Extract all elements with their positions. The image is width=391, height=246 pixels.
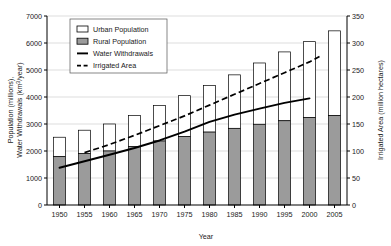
x-axis-tick-label: 1980 [202, 210, 218, 219]
bar-group [329, 31, 341, 205]
y-axis-right-tick-label: 200 [352, 93, 364, 102]
legend-item-label: Water Withdrawals [93, 49, 153, 58]
x-axis-tick-label: 1970 [152, 210, 168, 219]
legend-item: Rural Population [77, 37, 146, 46]
y-axis-left-tick-label: 3000 [26, 120, 42, 129]
x-axis-tick-label: 1950 [52, 210, 68, 219]
x-axis-title: Year [199, 232, 214, 241]
legend-item: Urban Population [77, 25, 149, 34]
x-axis-tick-label: 1995 [277, 210, 293, 219]
bar-group [179, 96, 191, 205]
y-axis-right-tick-label: 350 [352, 12, 364, 21]
bar-segment-rural [204, 132, 216, 205]
x-axis-tick-label: 1955 [77, 210, 93, 219]
bar-group [154, 106, 166, 205]
y-axis-right-tick-label: 300 [352, 39, 364, 48]
bar-segment-urban [329, 31, 341, 116]
bar-group [279, 52, 291, 205]
chart-legend: Urban PopulationRural PopulationWater Wi… [70, 19, 167, 73]
bar-group [129, 115, 141, 205]
bar-segment-urban [229, 75, 241, 128]
bar-segment-urban [104, 124, 116, 151]
bar-segment-urban [204, 85, 216, 132]
x-axis-tick-label: 1985 [227, 210, 243, 219]
x-axis-tick-label: 2000 [302, 210, 318, 219]
y-axis-left-title-line1: Population (millions), [6, 77, 15, 144]
legend-item-label: Irrigated Area [93, 61, 136, 70]
x-axis-tick-label: 1960 [102, 210, 118, 219]
legend-item-label: Urban Population [93, 25, 149, 34]
y-axis-right-tick-label: 50 [352, 174, 360, 183]
bar-segment-urban [54, 137, 66, 156]
y-axis-right-tick-label: 100 [352, 147, 364, 156]
x-axis-tick-label: 1965 [127, 210, 143, 219]
bar-segment-rural [154, 141, 166, 205]
y-axis-left-title-line2-b: /year) [15, 62, 24, 80]
bar-segment-urban [304, 42, 316, 118]
y-axis-left-tick-label: 5000 [26, 66, 42, 75]
legend-swatch-urban-icon [77, 26, 88, 32]
bar-segment-urban [129, 115, 141, 146]
legend-item-label: Rural Population [93, 37, 146, 46]
bar-segment-rural [104, 151, 116, 205]
bar-segment-rural [229, 128, 241, 205]
bar-segment-urban [79, 130, 91, 153]
bar-group [79, 130, 91, 205]
bar-segment-urban [279, 52, 291, 121]
y-axis-right-tick-label: 150 [352, 120, 364, 129]
legend-swatch-rural-icon [77, 38, 88, 44]
bar-group [104, 124, 116, 205]
x-axis-tick-label: 2005 [327, 210, 343, 219]
y-axis-left-tick-label: 4000 [26, 93, 42, 102]
y-axis-left-tick-label: 2000 [26, 147, 42, 156]
x-axis-tick-label: 1990 [252, 210, 268, 219]
y-axis-left-tick-label: 6000 [26, 39, 42, 48]
chart-container: 01000200030004000500060007000 0501001502… [0, 0, 391, 246]
bar-segment-rural [179, 136, 191, 205]
y-axis-left-title-line2: Water Withdrawals (km3/year) [15, 62, 24, 157]
y-axis-right-tick-label: 250 [352, 66, 364, 75]
y-axis-left-tick-label: 1000 [26, 174, 42, 183]
bar-group [304, 42, 316, 205]
bar-segment-urban [254, 63, 266, 124]
y-axis-right-title: Irrigated Area (million hectares) [376, 60, 385, 160]
y-axis-right-tick-label: 0 [352, 201, 356, 210]
y-axis-left-tick-label: 0 [38, 201, 42, 210]
combination-chart: 01000200030004000500060007000 0501001502… [0, 0, 391, 246]
bar-segment-rural [54, 157, 66, 205]
x-axis-tick-label: 1975 [177, 210, 193, 219]
bar-segment-rural [329, 116, 341, 205]
y-axis-left-tick-label: 7000 [26, 12, 42, 21]
bar-segment-rural [304, 118, 316, 205]
y-axis-left-title-line2-a: Water Withdrawals (km [15, 84, 24, 158]
bar-segment-rural [279, 121, 291, 205]
bar-group [54, 137, 66, 205]
bar-segment-rural [254, 124, 266, 205]
bar-segment-rural [129, 147, 141, 205]
